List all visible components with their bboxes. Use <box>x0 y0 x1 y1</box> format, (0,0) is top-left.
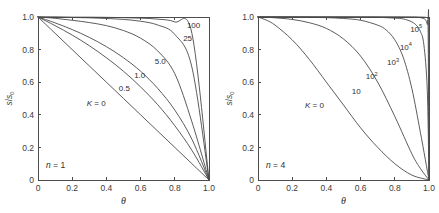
curve-label-100: 100 <box>187 21 201 30</box>
y-tick-label: 1.0 <box>242 12 254 22</box>
figure-container: 00.20.40.60.81.000.20.40.60.81.0θs/s0K =… <box>0 0 439 213</box>
x-tick-label: 0.2 <box>286 183 298 193</box>
curve-label-10-4: 104 <box>400 41 412 51</box>
y-tick-label: 0 <box>249 175 254 185</box>
y-tick-label: 0.4 <box>22 110 34 120</box>
panel-annotation: n = 4 <box>266 160 285 170</box>
y-tick-label: 1.0 <box>22 12 34 22</box>
panel-annotation: n = 1 <box>46 160 65 170</box>
x-tick-label: 0.8 <box>389 183 401 193</box>
x-axis-title: θ <box>121 195 126 206</box>
curve-10-2 <box>258 17 429 180</box>
curve-10 <box>258 17 429 180</box>
x-tick-label: 0 <box>256 183 261 193</box>
x-tick-label: 0.6 <box>135 183 147 193</box>
y-axis-denominator-sub: 0 <box>229 92 235 95</box>
curve-10-5 <box>258 9 429 180</box>
curve-label-value: 1.0 <box>134 71 146 80</box>
panel-annotation-value: = 4 <box>271 160 286 170</box>
curve-label-0-5: 0.5 <box>119 84 131 93</box>
x-tick-label: 0 <box>36 183 41 193</box>
y-tick-label: 0.4 <box>242 110 254 120</box>
y-tick-label: 0 <box>29 175 34 185</box>
curve-label-25: 25 <box>183 34 192 43</box>
curve-label-10: 10 <box>352 87 361 96</box>
y-axis-title-text: s/s0 <box>4 92 15 106</box>
plot-frame <box>258 17 429 180</box>
curve-label-1-0: 1.0 <box>134 71 146 80</box>
chart-svg-left: 00.20.40.60.81.000.20.40.60.81.0θs/s0K =… <box>0 0 219 213</box>
x-tick-label: 0.4 <box>100 183 112 193</box>
y-tick-label: 0.8 <box>242 45 254 55</box>
y-tick-label: 0.2 <box>22 143 34 153</box>
curve-label-10-3: 103 <box>387 57 399 67</box>
curve-label-k-0: K = 0 <box>305 101 324 110</box>
curve-10-4 <box>258 17 429 180</box>
y-axis-title: s/s0 <box>4 92 15 106</box>
x-tick-label: 1.0 <box>203 183 215 193</box>
curve-label-value: 5.0 <box>155 57 167 66</box>
chart-panel-right: 00.20.40.60.81.000.20.40.60.81.0θs/s0K =… <box>219 0 438 213</box>
curve-label-value: 25 <box>183 34 192 43</box>
y-tick-label: 0.8 <box>22 45 34 55</box>
x-tick-label: 0.4 <box>320 183 332 193</box>
y-axis-denominator-sub: 0 <box>9 92 15 95</box>
curve-label-value: 0.5 <box>119 84 131 93</box>
y-tick-label: 0.6 <box>242 77 254 87</box>
x-axis-title: θ <box>341 195 346 206</box>
y-axis-title: s/s0 <box>224 92 235 106</box>
y-axis-title-text: s/s0 <box>224 92 235 106</box>
curve-label-exponent: 3 <box>396 57 399 63</box>
curve-label-k-0: K = 0 <box>87 99 106 108</box>
curve-label-exponent: 2 <box>375 71 378 77</box>
panel-annotation-value: = 1 <box>51 160 66 170</box>
curve-label-value: 10 <box>352 87 361 96</box>
curve-k-0 <box>258 17 429 180</box>
curve-label-value: 100 <box>187 21 201 30</box>
curve-label-5-0: 5.0 <box>155 57 167 66</box>
y-tick-label: 0.6 <box>22 77 34 87</box>
x-tick-label: 0.2 <box>66 183 78 193</box>
curve-label-exponent: 5 <box>419 23 422 29</box>
chart-panel-left: 00.20.40.60.81.000.20.40.60.81.0θs/s0K =… <box>0 0 219 213</box>
curve-10-3 <box>258 17 429 180</box>
y-tick-label: 0.2 <box>242 143 254 153</box>
x-tick-label: 0.6 <box>355 183 367 193</box>
curve-label-value: = 0 <box>92 99 106 108</box>
curve-label-value: = 0 <box>310 101 324 110</box>
curve-label-exponent: 4 <box>409 41 412 47</box>
x-tick-label: 0.8 <box>169 183 181 193</box>
x-tick-label: 1.0 <box>423 183 435 193</box>
chart-svg-right: 00.20.40.60.81.000.20.40.60.81.0θs/s0K =… <box>219 0 439 213</box>
